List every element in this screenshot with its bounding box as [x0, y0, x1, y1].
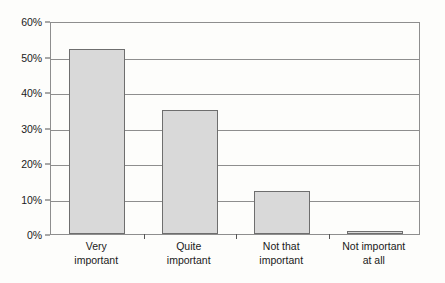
- y-axis-tick-label: 20%: [21, 158, 42, 170]
- bar-slot: [329, 23, 422, 234]
- y-axis-tick-label: 60%: [21, 16, 42, 28]
- y-axis-tick-label: 30%: [21, 123, 42, 135]
- plot-area: [50, 22, 420, 235]
- x-axis-category-label-line: Not that: [235, 240, 328, 254]
- bar: [162, 110, 218, 234]
- x-axis-category-label: Not importantat all: [328, 240, 421, 267]
- x-axis-category-label-line: Not important: [328, 240, 421, 254]
- y-axis-tick-label: 0%: [27, 229, 42, 241]
- x-axis-category-label: Not thatimportant: [235, 240, 328, 267]
- y-axis-tick-label: 40%: [21, 87, 42, 99]
- x-axis-category-label-line: Quite: [143, 240, 236, 254]
- x-axis-category-label-line: Very: [50, 240, 143, 254]
- bar: [69, 49, 125, 234]
- x-axis-tick-mark: [236, 234, 237, 239]
- x-axis-category-label-line: important: [143, 254, 236, 268]
- x-axis: VeryimportantQuiteimportantNot thatimpor…: [50, 240, 420, 280]
- y-axis-tick-label: 10%: [21, 194, 42, 206]
- x-axis-tick-mark: [329, 234, 330, 239]
- x-axis-category-label-line: important: [235, 254, 328, 268]
- y-axis: 0%10%20%30%40%50%60%: [0, 0, 50, 283]
- bar: [347, 231, 403, 234]
- x-axis-tick-mark: [144, 234, 145, 239]
- x-axis-category-label: Veryimportant: [50, 240, 143, 267]
- x-axis-category-label-line: at all: [328, 254, 421, 268]
- bar-slot: [144, 23, 237, 234]
- bar-chart: 0%10%20%30%40%50%60% VeryimportantQuitei…: [0, 0, 445, 283]
- bar: [254, 191, 310, 234]
- x-axis-category-label: Quiteimportant: [143, 240, 236, 267]
- x-axis-category-label-line: important: [50, 254, 143, 268]
- bar-slot: [51, 23, 144, 234]
- bar-slot: [236, 23, 329, 234]
- y-axis-tick-label: 50%: [21, 52, 42, 64]
